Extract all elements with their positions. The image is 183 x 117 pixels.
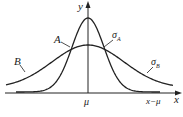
mu-tick-label: μ bbox=[84, 97, 89, 107]
curve-a-leader bbox=[61, 42, 70, 47]
curve-a-label: A bbox=[54, 34, 61, 45]
y-axis-arrow-icon bbox=[86, 1, 91, 8]
normal-curves-diagram: y x μ x−μ A B σA σB bbox=[0, 0, 183, 117]
sigma-a-subscript: A bbox=[117, 36, 121, 42]
sigma-a-label: σA bbox=[112, 30, 121, 42]
curve-b-label: B bbox=[14, 56, 21, 67]
x-minus-mu-label: x−μ bbox=[146, 97, 161, 106]
sigma-b-subscript: B bbox=[156, 63, 160, 69]
x-axis-label: x bbox=[174, 94, 179, 105]
y-axis-label: y bbox=[78, 1, 83, 12]
sigma-b-label: σB bbox=[151, 57, 160, 69]
curve-b bbox=[6, 45, 173, 85]
